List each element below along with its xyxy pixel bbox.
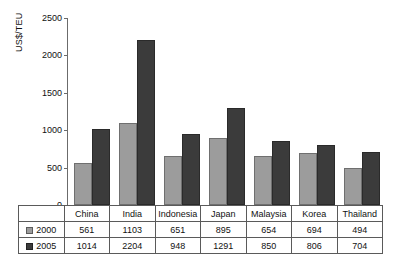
table-header-row: ChinaIndiaIndonesiaJapanMalaysiaKoreaTha… <box>19 206 383 222</box>
legend-cell-2000: 2000 <box>19 222 65 238</box>
y-tick-label: 2000 <box>42 50 62 60</box>
cell-2000-thailand: 494 <box>337 222 383 238</box>
bar-groups <box>68 18 383 205</box>
cell-2005-india: 2204 <box>110 238 156 254</box>
cell-2000-malaysia: 654 <box>246 222 292 238</box>
column-header-india: India <box>110 206 156 222</box>
cell-2005-thailand: 704 <box>337 238 383 254</box>
column-header-japan: Japan <box>201 206 247 222</box>
bar-2005-china <box>92 129 110 205</box>
legend-label: 2000 <box>36 225 56 235</box>
column-header-indonesia: Indonesia <box>155 206 201 222</box>
bar-2005-thailand <box>362 152 380 205</box>
cell-2005-malaysia: 850 <box>246 238 292 254</box>
y-axis-title: US$/TEU <box>14 0 24 52</box>
bar-2000-indonesia <box>164 156 182 205</box>
bar-group <box>338 18 383 205</box>
bar-2005-malaysia <box>272 141 290 205</box>
legend-swatch-icon <box>26 227 33 234</box>
bar-group <box>293 18 338 205</box>
y-tick-label: 500 <box>47 163 62 173</box>
y-tick-mark <box>64 168 67 169</box>
column-header-thailand: Thailand <box>337 206 383 222</box>
chart-page: US$/TEU 05001000150020002500 ChinaIndiaI… <box>0 0 402 270</box>
cell-2005-korea: 806 <box>292 238 338 254</box>
bar-2000-japan <box>209 138 227 205</box>
table-row: 2005101422049481291850806704 <box>19 238 383 254</box>
bar-group <box>203 18 248 205</box>
column-header-malaysia: Malaysia <box>246 206 292 222</box>
y-tick-mark <box>64 130 67 131</box>
cell-2000-china: 561 <box>64 222 110 238</box>
table-corner-cell <box>19 206 65 222</box>
legend-cell-2005: 2005 <box>19 238 65 254</box>
y-tick-mark <box>64 93 67 94</box>
bar-2005-india <box>137 40 155 205</box>
y-axis-tick-labels: 05001000150020002500 <box>36 0 62 210</box>
plot-area: US$/TEU 05001000150020002500 <box>0 0 402 210</box>
column-header-korea: Korea <box>292 206 338 222</box>
cell-2000-indonesia: 651 <box>155 222 201 238</box>
bar-2000-china <box>74 163 92 205</box>
data-table-wrap: ChinaIndiaIndonesiaJapanMalaysiaKoreaTha… <box>18 205 383 254</box>
cell-2000-japan: 895 <box>201 222 247 238</box>
cell-2000-india: 1103 <box>110 222 156 238</box>
bar-2000-korea <box>299 153 317 205</box>
bar-group <box>158 18 203 205</box>
cell-2005-japan: 1291 <box>201 238 247 254</box>
bar-2005-indonesia <box>182 134 200 205</box>
y-tick-mark <box>64 18 67 19</box>
legend-swatch-icon <box>26 243 33 250</box>
y-tick-mark <box>64 55 67 56</box>
y-tick-label: 2500 <box>42 13 62 23</box>
bar-2000-malaysia <box>254 156 272 205</box>
y-tick-label: 1500 <box>42 88 62 98</box>
bar-2005-korea <box>317 145 335 205</box>
cell-2000-korea: 694 <box>292 222 338 238</box>
bar-2000-thailand <box>344 168 362 205</box>
table-row: 20005611103651895654694494 <box>19 222 383 238</box>
y-tick-label: 1000 <box>42 125 62 135</box>
bar-group <box>68 18 113 205</box>
bar-group <box>248 18 293 205</box>
legend-label: 2005 <box>36 241 56 251</box>
bar-2005-japan <box>227 108 245 205</box>
bar-group <box>113 18 158 205</box>
cell-2005-indonesia: 948 <box>155 238 201 254</box>
data-table: ChinaIndiaIndonesiaJapanMalaysiaKoreaTha… <box>18 205 383 254</box>
bar-2000-india <box>119 123 137 206</box>
column-header-china: China <box>64 206 110 222</box>
cell-2005-china: 1014 <box>64 238 110 254</box>
